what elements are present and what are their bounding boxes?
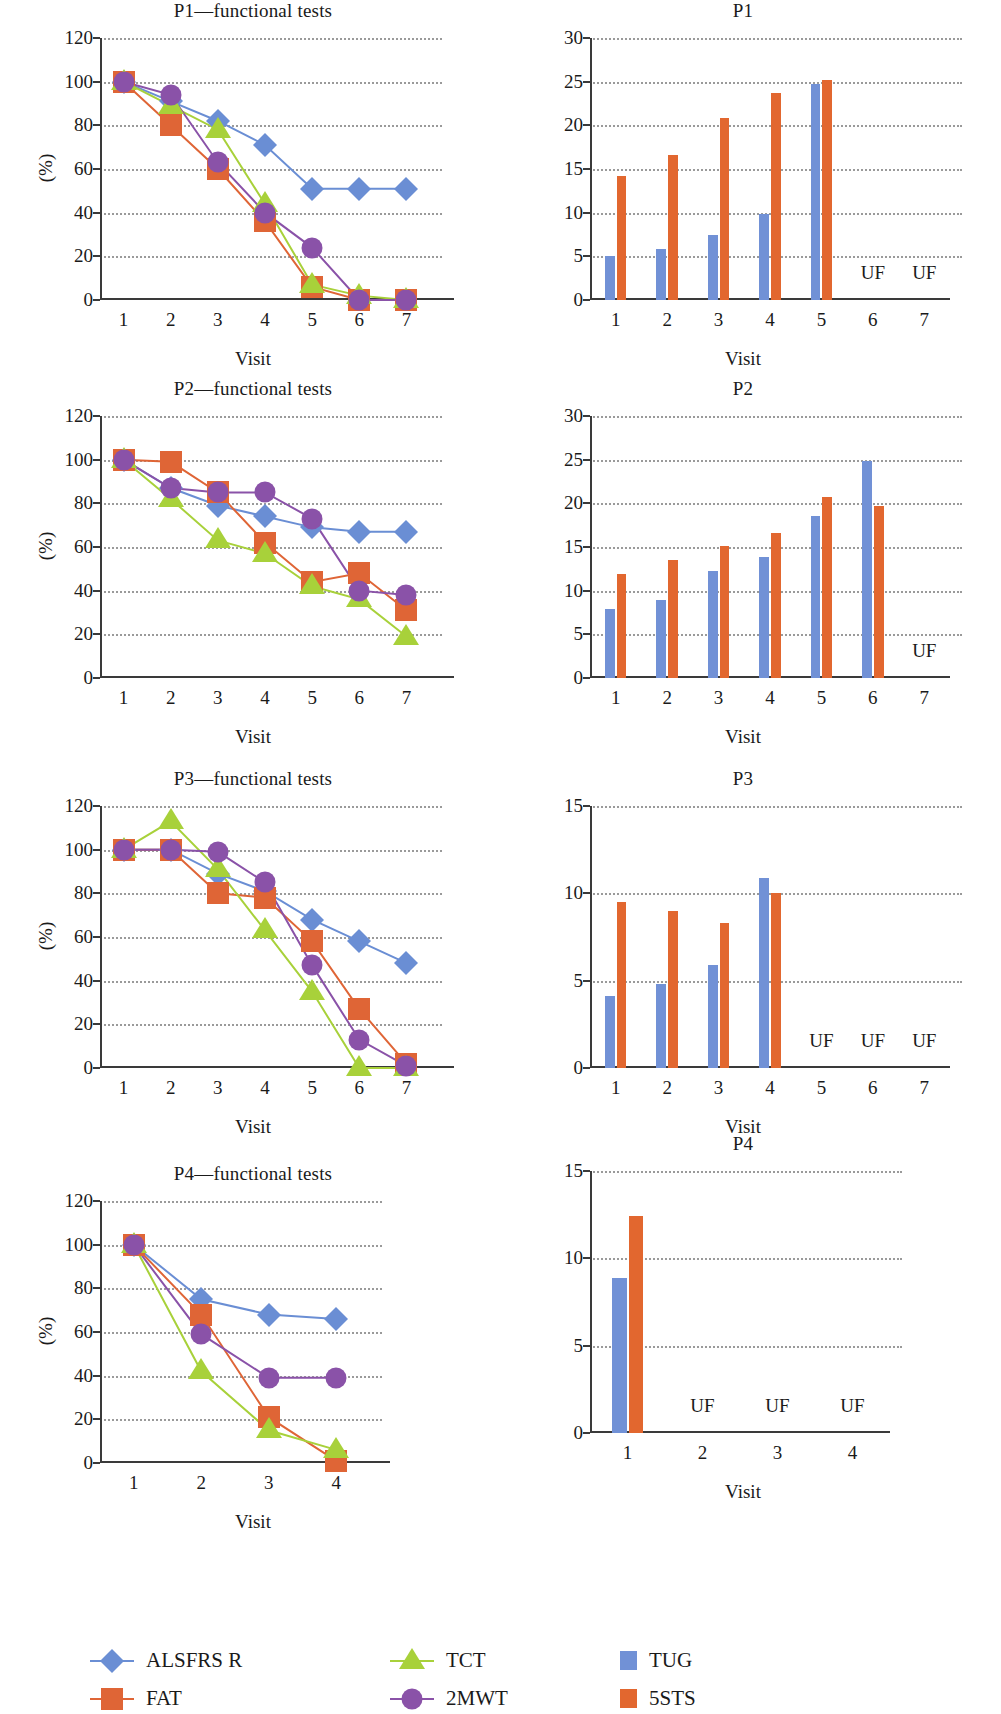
panel-title-p1-bars: P1	[508, 0, 978, 22]
gridline	[590, 82, 962, 84]
bar-tug	[605, 256, 615, 300]
marker-2mwt	[349, 580, 370, 601]
bar-tug	[759, 557, 769, 678]
bar-5sts	[771, 533, 781, 678]
bar-tug	[656, 600, 666, 678]
gridline	[590, 460, 962, 462]
y-tick-label: 20	[74, 1408, 93, 1430]
chart-panel-p1-functional: P1—functional tests020406080100120123456…	[18, 0, 488, 330]
marker-2mwt	[302, 955, 323, 976]
marker-fat	[190, 1304, 212, 1326]
panel-title-p2-bars: P2	[508, 378, 978, 400]
x-tick-label: 1	[119, 687, 129, 709]
x-axis-extension	[430, 676, 454, 678]
y-tick-label: 20	[564, 492, 583, 514]
bar-5sts	[629, 1216, 643, 1433]
y-tick-mark	[583, 502, 590, 504]
y-tick-label: 10	[564, 201, 583, 223]
y-tick-mark	[583, 415, 590, 417]
y-axis-title: (%)	[35, 1303, 57, 1359]
x-tick-label: 7	[920, 1077, 930, 1099]
marker-tct	[299, 979, 325, 1000]
marker-2mwt	[255, 482, 276, 503]
bar-tug	[656, 249, 666, 300]
x-tick-label: 6	[868, 687, 878, 709]
unfeasible-label: UF	[912, 1030, 936, 1052]
legend-marker-triangle-icon	[399, 1647, 425, 1668]
x-tick-label: 7	[402, 309, 412, 331]
marker-2mwt	[160, 84, 181, 105]
x-tick-label: 1	[611, 687, 621, 709]
y-tick-mark	[93, 1023, 100, 1025]
y-tick-mark	[93, 590, 100, 592]
x-axis-title: Visit	[508, 1481, 978, 1503]
x-axis-extension	[430, 298, 454, 300]
y-tick-label: 40	[74, 579, 93, 601]
unfeasible-label: UF	[840, 1395, 864, 1417]
unfeasible-label: UF	[861, 1030, 885, 1052]
marker-tct	[393, 623, 419, 644]
x-tick-label: 2	[662, 309, 672, 331]
y-tick-label: 60	[74, 158, 93, 180]
y-axis-line	[590, 416, 592, 678]
y-tick-mark	[93, 1200, 100, 1202]
gridline	[590, 416, 962, 418]
y-tick-mark	[93, 415, 100, 417]
y-axis-line	[590, 1171, 592, 1433]
figure-legend: ALSFRS RFATTCT2MWTTUG5STS	[90, 1648, 920, 1714]
panel-title-p4-bars: P4	[508, 1133, 978, 1155]
y-tick-label: 0	[84, 1057, 94, 1079]
legend-item-2mwt: 2MWT	[390, 1686, 508, 1711]
x-tick-label: 2	[166, 309, 176, 331]
bar-tug	[708, 235, 718, 300]
marker-2mwt	[207, 152, 228, 173]
y-axis-line	[590, 38, 592, 300]
gridline	[590, 806, 962, 808]
marker-tct	[346, 1055, 372, 1076]
legend-swatch-icon	[620, 1651, 637, 1670]
x-tick-label: 3	[264, 1472, 274, 1494]
y-tick-label: 20	[74, 623, 93, 645]
x-tick-label: 4	[260, 687, 270, 709]
chart-panel-p3-functional: P3—functional tests020406080100120123456…	[18, 768, 488, 1098]
legend-item-label: ALSFRS R	[146, 1648, 242, 1673]
y-tick-mark	[583, 1432, 590, 1434]
marker-2mwt	[326, 1367, 347, 1388]
y-tick-label: 15	[564, 158, 583, 180]
y-tick-mark	[583, 892, 590, 894]
chart-panel-p4-bars: P40510151234UFUFUFVisit	[508, 1133, 978, 1463]
y-tick-label: 0	[84, 667, 94, 689]
y-tick-mark	[93, 168, 100, 170]
y-tick-mark	[93, 1287, 100, 1289]
y-tick-label: 120	[65, 1190, 94, 1212]
unfeasible-label: UF	[765, 1395, 789, 1417]
x-tick-label: 3	[213, 1077, 223, 1099]
legend-line-sample	[390, 1650, 434, 1671]
marker-tct	[299, 272, 325, 293]
gridline	[590, 38, 962, 40]
y-tick-label: 0	[574, 667, 584, 689]
y-tick-mark	[93, 677, 100, 679]
plot-area-p3-bars: 0510151234567UFUFUF	[590, 806, 950, 1068]
x-tick-label: 4	[848, 1442, 858, 1464]
marker-tct	[323, 1437, 349, 1458]
y-tick-label: 0	[84, 1452, 94, 1474]
bar-tug	[708, 965, 718, 1068]
plot-area-p4-bars: 0510151234UFUFUF	[590, 1171, 890, 1433]
x-tick-label: 2	[662, 687, 672, 709]
gridline	[590, 1171, 902, 1173]
bar-5sts	[720, 118, 730, 300]
x-tick-label: 1	[119, 309, 129, 331]
bar-5sts	[668, 911, 678, 1068]
marker-fat	[348, 998, 370, 1020]
y-tick-label: 120	[65, 27, 94, 49]
y-tick-mark	[93, 255, 100, 257]
panel-title-p2-functional: P2—functional tests	[18, 378, 488, 400]
marker-fat	[160, 114, 182, 136]
bar-5sts	[771, 93, 781, 300]
y-tick-label: 80	[74, 882, 93, 904]
legend-item-tug: TUG	[620, 1648, 692, 1673]
marker-tct	[158, 808, 184, 829]
y-axis-title: (%)	[35, 518, 57, 574]
